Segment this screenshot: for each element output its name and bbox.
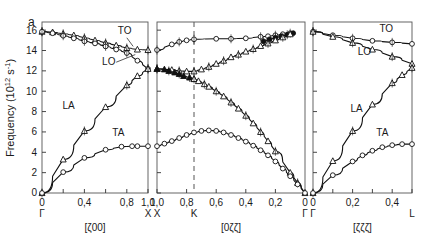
symmetry-point-label: L: [409, 208, 415, 219]
x-tick-label: 0,2: [268, 197, 282, 208]
data-point-open_circle: [155, 144, 160, 149]
data-point-open_circle: [288, 174, 293, 179]
data-point-open_circle: [243, 139, 248, 144]
x-axis-label: [ζζζ]: [353, 222, 372, 234]
data-point-open_circle: [311, 191, 316, 196]
symmetry-point-label: Γ: [310, 208, 316, 219]
data-point-open_circle: [114, 47, 119, 52]
data-point-open_circle: [184, 38, 189, 43]
data-point-open_circle: [146, 144, 151, 149]
branch-label-LO: LO: [102, 56, 116, 67]
data-point-open_circle: [390, 143, 395, 148]
y-tick-label: 14: [26, 45, 38, 56]
data-point-open_circle: [266, 153, 271, 158]
data-point-open_circle: [214, 129, 219, 134]
panel-3: 00,20,4ΓL[ζζζ]TOLOLATA: [310, 22, 415, 234]
data-point-open_circle: [130, 144, 135, 149]
panel-2: 1,00,80,60,40,20XKΓ[0ζζ]: [150, 22, 308, 234]
x-axis-label: [0ζζ]: [221, 222, 241, 234]
data-point-open_circle: [50, 31, 55, 36]
data-point-open_circle: [169, 42, 174, 47]
branch-label-LA: LA: [62, 100, 75, 111]
series-curve: [313, 32, 412, 44]
data-point-open_circle: [214, 36, 219, 41]
phonon-dispersion-chart: aFrequency (1012 s-1)024681012141600,40,…: [0, 0, 423, 242]
x-tick-label: 0,4: [239, 197, 253, 208]
data-point-open_circle: [103, 147, 108, 152]
branch-label-TA: TA: [112, 127, 124, 138]
series-curve: [42, 69, 148, 193]
x-tick-label: 0,6: [209, 197, 223, 208]
data-point-open_circle: [177, 136, 182, 141]
y-tick-label: 16: [26, 25, 38, 36]
branch-label-LA: LA: [350, 103, 363, 114]
data-point-open_circle: [206, 128, 211, 133]
data-point-open_circle: [135, 144, 140, 149]
y-tick-label: 8: [31, 106, 37, 117]
x-tick-label: 1,0: [150, 197, 164, 208]
series-curve: [42, 146, 148, 193]
data-point-open_circle: [82, 155, 87, 160]
data-point-open_circle: [184, 133, 189, 138]
x-axis-label: [ζ00]: [84, 222, 105, 234]
branch-label-LO: LO: [358, 46, 372, 57]
symmetry-point-label: Γ: [39, 208, 45, 219]
branch-label-TO: TO: [379, 23, 393, 34]
data-point-open_circle: [93, 41, 98, 46]
y-tick-label: 2: [31, 167, 37, 178]
data-point-open_circle: [40, 191, 45, 196]
data-point-open_circle: [199, 129, 204, 134]
y-tick-label: 6: [31, 126, 37, 137]
panel-1: 024681012141600,40,81,0ΓX[ζ00]TOLOLATA: [26, 22, 156, 234]
y-axis-title: Frequency (1012 s-1): [3, 59, 17, 157]
data-point-open_circle: [400, 142, 405, 147]
x-tick-label: 0,8: [180, 197, 194, 208]
symmetry-point-label: Γ: [302, 208, 308, 219]
data-point-open_circle: [280, 166, 285, 171]
data-point-open_circle: [410, 41, 415, 46]
data-point-open_circle: [192, 130, 197, 135]
y-tick-label: 4: [31, 147, 37, 158]
y-tick-label: 12: [26, 65, 38, 76]
x-tick-label: 0: [302, 197, 308, 208]
branch-label-TA: TA: [376, 127, 388, 138]
x-tick-label: 0,2: [346, 197, 360, 208]
y-tick-label: 10: [26, 86, 38, 97]
figure-root: aFrequency (1012 s-1)024681012141600,40,…: [0, 0, 423, 242]
x-tick-label: 0,4: [385, 197, 399, 208]
data-point-open_circle: [370, 38, 375, 43]
x-tick-label: 0: [39, 197, 45, 208]
data-point-open_circle: [162, 141, 167, 146]
data-point-open_circle: [410, 142, 415, 147]
x-tick-label: 0,4: [77, 197, 91, 208]
data-point-open_circle: [330, 173, 335, 178]
data-point-open_circle: [380, 145, 385, 150]
branch-label-TO: TO: [118, 25, 132, 36]
data-point-open_circle: [273, 159, 278, 164]
leader-line-lo: [116, 55, 135, 63]
y-axis-title-text: Frequency (1012 s-1): [3, 59, 17, 157]
data-point-open_circle: [169, 139, 174, 144]
leader-line-to: [127, 38, 133, 47]
data-point-open_circle: [221, 130, 226, 135]
data-point-open_triangle: [221, 93, 227, 99]
x-tick-label: 0: [310, 197, 316, 208]
symmetry-point-label: K: [191, 208, 198, 219]
data-point-open_circle: [61, 170, 66, 175]
y-tick-label: 0: [31, 187, 37, 198]
data-point-open_circle: [251, 143, 256, 148]
data-point-open_circle: [119, 144, 124, 149]
series-curve: [313, 68, 412, 193]
symmetry-point-label: X: [154, 208, 161, 219]
data-point-open_circle: [350, 159, 355, 164]
data-point-open_circle: [71, 36, 76, 41]
x-tick-label: 0,8: [120, 197, 134, 208]
data-point-open_circle: [360, 153, 365, 158]
symmetry-point-label: X: [145, 208, 152, 219]
data-point-open_circle: [135, 58, 140, 63]
data-point-open_circle: [258, 148, 263, 153]
data-point-open_circle: [236, 136, 241, 141]
data-point-open_circle: [370, 148, 375, 153]
data-point-open_circle: [243, 36, 248, 41]
data-point-open_circle: [229, 133, 234, 138]
